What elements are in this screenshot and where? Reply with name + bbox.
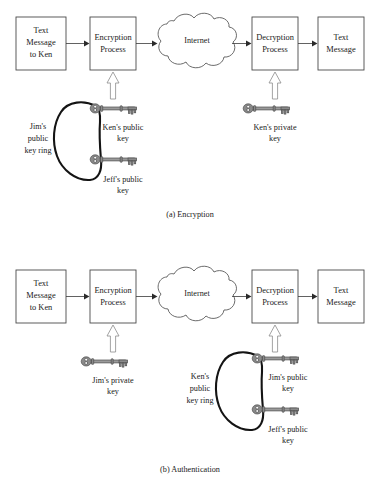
panel-b-cloud-label: Internet (184, 289, 210, 298)
panel-a-sink-line-2: Message (326, 45, 356, 54)
panel-a-ring-label-1: Jim's (30, 122, 47, 131)
panel-a-ring-label-3: key ring (24, 146, 51, 155)
panel-b-key-jims-public-label-1: Jim's public (268, 373, 307, 382)
panel-a-key-jeffs-public-label-2: key (117, 186, 130, 195)
panel-a-key-kens-public: Ken's public key (90, 104, 144, 143)
panel-b-key-feed-arrow-right (269, 325, 281, 352)
panel-a-key-kens-public-label-1: Ken's public (103, 123, 144, 132)
panel-b-source-line-3: to Ken (30, 303, 53, 312)
panel-a-source-line-1: Text (34, 26, 49, 35)
panel-a-ring-label-2: public (28, 134, 49, 143)
panel-b-key-jeffs-public-label-1: Jeff's public (268, 425, 308, 434)
panel-b-internet-cloud: Internet (158, 266, 236, 321)
panel-a-encryption-box: Encryption Process (90, 17, 136, 70)
panel-a-key-feed-arrow-left (107, 72, 119, 99)
panel-b-encrypt-line-2: Process (100, 298, 126, 307)
panel-b-key-jims-private-label-1: Jim's private (92, 376, 134, 385)
panel-b-key-ring-label: Ken's public key ring (186, 372, 213, 405)
panel-b-arrow-decrypt-to-sink (298, 294, 318, 300)
panel-a-arrow-decrypt-to-sink (298, 41, 318, 47)
panel-a-key-ring-label: Jim's public key ring (24, 122, 51, 155)
panel-b-encrypt-line-1: Encryption (94, 286, 132, 295)
panel-b-ring-label-3: key ring (186, 396, 213, 405)
panel-b: Text Message to Ken Encryption Process I… (16, 266, 364, 474)
panel-a-key-kens-public-label-2: key (117, 134, 130, 143)
panel-b-sink-line-1: Text (334, 286, 349, 295)
panel-a-key-kens-private: Ken's private key (243, 104, 297, 143)
panel-a-sink-box: Text Message (318, 17, 364, 70)
panel-a-source-line-2: Message (26, 38, 56, 47)
panel-a-encrypt-line-2: Process (100, 45, 126, 54)
panel-a-key-feed-arrow-right (269, 72, 281, 99)
panel-b-key-jims-public-label-2: key (282, 384, 295, 393)
panel-b-ring-label-2: public (190, 384, 211, 393)
panel-b-decrypt-line-2: Process (262, 298, 288, 307)
panel-b-key-feed-arrow-left (107, 325, 119, 352)
panel-b-source-line-1: Text (34, 279, 49, 288)
panel-b-key-jims-public: Jim's public key (252, 354, 308, 393)
panel-a-source-box: Text Message to Ken (16, 17, 66, 70)
panel-b-arrow-encrypt-to-cloud (136, 294, 158, 300)
panel-b-key-ring (216, 352, 263, 430)
panel-b-caption: (b) Authentication (160, 465, 220, 474)
panel-b-key-jims-private-label-2: key (107, 387, 120, 396)
panel-b-sink-box: Text Message (318, 270, 364, 323)
panel-b-source-box: Text Message to Ken (16, 270, 66, 323)
panel-a: Text Message to Ken Encryption Process I… (16, 13, 364, 219)
panel-b-arrow-source-to-encrypt (66, 294, 90, 300)
cryptography-diagram: Text Message to Ken Encryption Process I… (0, 0, 380, 494)
panel-a-key-kens-private-label-1: Ken's private (253, 123, 296, 132)
panel-a-decrypt-line-1: Decryption (256, 33, 294, 42)
figure-canvas: Text Message to Ken Encryption Process I… (0, 0, 380, 494)
panel-a-sink-line-1: Text (334, 33, 349, 42)
panel-a-decryption-box: Decryption Process (252, 17, 298, 70)
panel-a-arrow-encrypt-to-cloud (136, 41, 158, 47)
panel-b-decrypt-line-1: Decryption (256, 286, 294, 295)
panel-a-key-ring (54, 102, 101, 180)
panel-b-decryption-box: Decryption Process (252, 270, 298, 323)
panel-a-source-line-3: to Ken (30, 50, 53, 59)
panel-b-key-jeffs-public-label-2: key (282, 436, 295, 445)
panel-a-caption: (a) Encryption (166, 210, 214, 219)
panel-a-cloud-label: Internet (184, 36, 210, 45)
panel-a-internet-cloud: Internet (158, 13, 236, 68)
panel-a-encrypt-line-1: Encryption (94, 33, 132, 42)
panel-b-encryption-box: Encryption Process (90, 270, 136, 323)
panel-a-key-jeffs-public-label-1: Jeff's public (103, 175, 143, 184)
panel-a-decrypt-line-2: Process (262, 45, 288, 54)
panel-a-arrow-source-to-encrypt (66, 41, 90, 47)
panel-a-key-kens-private-label-2: key (269, 134, 282, 143)
panel-b-source-line-2: Message (26, 291, 56, 300)
panel-b-sink-line-2: Message (326, 298, 356, 307)
panel-b-ring-label-1: Ken's (191, 372, 209, 381)
panel-b-key-jims-private: Jim's private key (81, 357, 134, 396)
